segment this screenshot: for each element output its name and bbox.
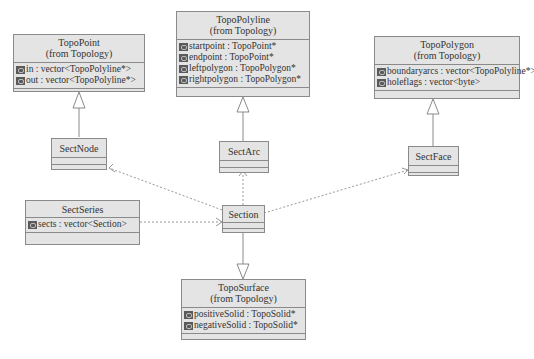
attribute-compartment: boundaryarcs : vector<TopoPolyline*> hol… [375,65,519,91]
generalization-arrow-icon [237,97,249,112]
attribute-icon [184,322,193,330]
operation-compartment [409,173,458,180]
attribute-row[interactable]: out : vector<TopoPolyline*> [16,75,144,86]
class-topo-polyline[interactable]: TopoPolyline (from Topology) startpoint … [176,11,310,97]
class-header: TopoPolyline (from Topology) [177,12,309,40]
dependency-line-sectface [264,170,408,213]
attribute-icon [377,79,386,87]
class-name: SectNode [52,139,106,158]
attribute-icon [179,76,188,84]
attribute-compartment: in : vector<TopoPolyline*> out : vector<… [14,63,144,89]
attribute-compartment [52,158,106,165]
generalization-arrow-icon [237,264,249,279]
class-topo-polygon[interactable]: TopoPolygon (from Topology) boundaryarcs… [374,36,520,99]
class-name: Section [223,206,264,223]
class-name: TopoPolyline [179,14,307,25]
class-sect-series[interactable]: SectSeries sects : vector<Section> [25,200,140,245]
attribute-icon [377,68,386,76]
attribute-compartment [220,161,268,168]
operation-compartment [220,168,268,175]
class-name: TopoPoint [16,37,142,48]
attribute-icon [16,66,25,74]
attribute-row[interactable]: boundaryarcs : vector<TopoPolyline*> [377,66,519,77]
attribute-row[interactable]: endpoint : TopoPoint* [179,52,309,63]
class-header: TopoSurface (from Topology) [182,280,305,308]
class-package: (from Topology) [16,48,142,59]
operation-compartment [177,88,309,96]
operation-compartment [52,165,106,172]
attribute-row[interactable]: positiveSolid : TopoSolid* [184,309,305,320]
attribute-icon [179,43,188,51]
attribute-compartment: sects : vector<Section> [26,218,139,233]
attribute-row[interactable]: rightpolygon : TopoPolygon* [179,74,309,85]
attribute-icon [16,77,25,85]
class-sect-arc[interactable]: SectArc [219,141,269,173]
attribute-row[interactable]: leftpolygon : TopoPolygon* [179,63,309,74]
attribute-row[interactable]: startpoint : TopoPoint* [179,41,309,52]
class-name: TopoPolygon [377,39,517,50]
class-sect-face[interactable]: SectFace [408,146,459,176]
class-package: (from Topology) [179,25,307,36]
attribute-icon [179,65,188,73]
class-name: SectArc [220,142,268,161]
dependency-arrow-icon [109,164,115,172]
attribute-compartment: startpoint : TopoPoint* endpoint : TopoP… [177,40,309,88]
attribute-row[interactable]: in : vector<TopoPolyline*> [16,64,144,75]
class-name: TopoSurface [184,282,303,293]
attribute-icon [184,311,193,319]
class-header: TopoPoint (from Topology) [14,35,144,63]
attribute-row[interactable]: negativeSolid : TopoSolid* [184,320,305,331]
class-sect-node[interactable]: SectNode [51,138,107,170]
class-package: (from Topology) [377,50,517,61]
operation-compartment [14,89,144,97]
class-header: TopoPolygon (from Topology) [375,37,519,65]
attribute-compartment: positiveSolid : TopoSolid* negativeSolid… [182,308,305,334]
attribute-icon [28,221,37,229]
operation-compartment [182,334,305,342]
class-topo-surface[interactable]: TopoSurface (from Topology) positiveSoli… [181,279,306,340]
operation-compartment [223,229,264,234]
generalization-arrow-icon [427,99,439,114]
class-name: SectFace [409,147,458,166]
class-topo-point[interactable]: TopoPoint (from Topology) in : vector<To… [13,34,145,92]
class-section[interactable]: Section [222,205,265,233]
attribute-row[interactable]: sects : vector<Section> [28,219,139,230]
class-package: (from Topology) [184,293,303,304]
operation-compartment [26,233,139,241]
operation-compartment [375,91,519,99]
attribute-row[interactable]: holeflags : vector<byte> [377,77,519,88]
attribute-icon [179,54,188,62]
class-name: SectSeries [26,201,139,218]
attribute-compartment [409,166,458,173]
